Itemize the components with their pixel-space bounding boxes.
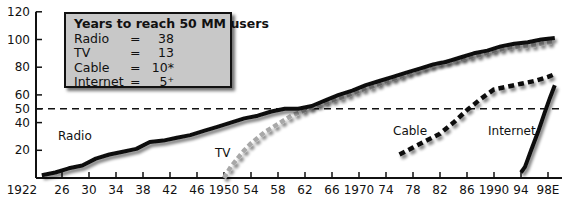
x-tick-label: 38 [135,183,150,197]
x-tick-label: 74 [378,183,393,197]
x-tick-label: 98E [537,183,560,197]
x-tick-label: 94 [513,183,528,197]
y-tick-label: 50 [15,102,30,116]
series-label-cable: Cable [393,124,427,138]
legend-value: 10* [146,61,186,76]
legend-eq: = [130,61,146,76]
x-tick-label: 78 [405,183,420,197]
y-tick-label: 20 [15,143,30,157]
legend-name: Internet [74,75,130,90]
legend-eq: = [130,32,146,47]
x-tick-label: 30 [81,183,96,197]
x-tick-label: 58 [270,183,285,197]
x-tick-label: 82 [432,183,447,197]
legend-row-tv: TV = 13 [74,46,222,61]
x-tick-label: 1970 [344,183,375,197]
x-tick-label: 34 [108,183,123,197]
legend-name: Radio [74,32,130,47]
y-tick-label: 60 [15,88,30,102]
y-tick-label: 80 [15,60,30,74]
legend-name: Cable [74,61,130,76]
series-label-tv: TV [214,146,231,160]
x-tick-label: 46 [189,183,204,197]
x-tick-label: 1922 [7,183,38,197]
x-tick-label: 86 [459,183,474,197]
x-tick-label: 1950 [209,183,240,197]
x-tick-label: 62 [297,183,312,197]
legend-row-internet: Internet = 5⁺ [74,75,222,90]
legend-row-cable: Cable = 10* [74,61,222,76]
legend-value: 38 [146,32,186,47]
x-tick-label: 66 [324,183,339,197]
legend-box: Years to reach 50 MM users Radio = 38 TV… [64,12,232,88]
legend-value: 5⁺ [146,75,186,90]
legend-row-radio: Radio = 38 [74,32,222,47]
y-tick-label: 120 [7,5,30,19]
x-tick-label: 1990 [479,183,510,197]
legend-title: Years to reach 50 MM users [74,17,222,32]
x-tick-label: 54 [243,183,258,197]
x-tick-label: 42 [162,183,177,197]
legend-eq: = [130,46,146,61]
y-tick-label: 100 [7,33,30,47]
legend-name: TV [74,46,130,61]
y-tick-label: 40 [15,116,30,130]
legend-eq: = [130,75,146,90]
series-label-internet: Internet [488,124,536,138]
legend-value: 13 [146,46,186,61]
series-line-cable [400,74,555,154]
series-labels: RadioTVCableInternet [58,124,536,160]
series-label-radio: Radio [58,129,92,143]
x-tick-label: 26 [54,183,69,197]
